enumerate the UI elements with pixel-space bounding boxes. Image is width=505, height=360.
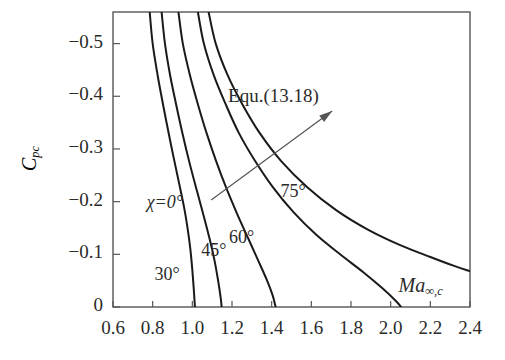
y-tick-label: −0.1 — [47, 241, 103, 263]
y-tick-label: −0.5 — [47, 31, 103, 53]
curve-label-2: 45° — [201, 240, 226, 261]
y-tick-label: −0.3 — [47, 136, 103, 158]
figure-container: Cpc Ma∞,c 0.60.81.01.21.41.61.82.02.22.4… — [0, 0, 505, 360]
annotation-equ: Equ.(13.18) — [228, 85, 319, 107]
y-tick-label: −0.4 — [47, 83, 103, 105]
x-axis-title-sub: ∞,c — [425, 284, 442, 298]
curve-3 — [198, 12, 401, 307]
curves-group — [150, 12, 470, 307]
x-tick-label: 2.4 — [445, 317, 495, 339]
curve-label-3: 60° — [229, 227, 254, 248]
x-axis-title-main: Ma — [399, 274, 426, 296]
x-axis-title: Ma∞,c — [399, 274, 443, 299]
curve-2 — [178, 12, 275, 307]
y-tick-label: 0 — [47, 294, 103, 316]
curve-label-4: 75° — [281, 181, 306, 202]
curve-label-0: χ=0° — [147, 192, 183, 213]
curve-label-1: 30° — [155, 264, 180, 285]
y-tick-label: −0.2 — [47, 189, 103, 211]
y-axis-title-sub: pc — [28, 146, 42, 158]
y-axis-title: Cpc — [18, 146, 43, 171]
y-axis-title-main: C — [18, 158, 40, 171]
